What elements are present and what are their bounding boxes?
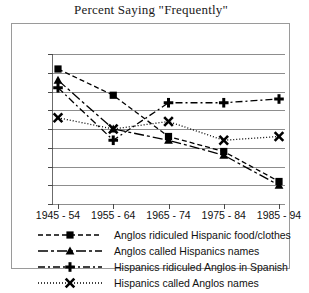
- data-point-square: [66, 231, 73, 238]
- data-point-plus: [164, 98, 174, 108]
- x-axis-tick-labels: 1945 - 541955 - 641965 - 741975 - 841985…: [26, 209, 294, 225]
- legend-marker-square-icon: [34, 227, 106, 243]
- legend-item: Hispanics called Anglos names: [34, 275, 290, 291]
- data-point-plus: [65, 262, 75, 272]
- chart-frame: 4035302520151050 1945 - 541955 - 641965 …: [11, 23, 290, 269]
- legend-label: Anglos ridiculed Hispanic food/clothes: [106, 229, 291, 241]
- data-point-x: [54, 113, 63, 122]
- series-line: [58, 69, 279, 182]
- legend-item: Anglos called Hispanics names: [34, 243, 290, 259]
- legend-label: Hispanics called Anglos names: [106, 277, 259, 289]
- data-point-plus: [274, 94, 284, 104]
- data-point-x: [219, 136, 228, 145]
- x-tick-label: 1955 - 64: [83, 209, 143, 221]
- data-point-plus: [219, 98, 229, 108]
- chart-title: Percent Saying "Frequently": [0, 2, 302, 18]
- legend-marker-x-icon: [34, 275, 106, 291]
- series-line: [58, 88, 279, 141]
- legend-marker-plus-icon: [34, 259, 106, 275]
- x-tick-label: 1985 - 94: [249, 209, 309, 221]
- data-point-square: [110, 92, 117, 99]
- x-tick-label: 1965 - 74: [139, 209, 199, 221]
- legend-label: Hispanics ridiculed Anglos in Spanish: [106, 261, 288, 273]
- y-tick-mark: [48, 204, 53, 205]
- chart-legend: Anglos ridiculed Hispanic food/clothesAn…: [34, 227, 290, 291]
- series-lines: [52, 54, 285, 204]
- legend-label: Anglos called Hispanics names: [106, 245, 259, 257]
- plot-area: 4035302520151050: [52, 54, 285, 204]
- x-tick-label: 1945 - 54: [28, 209, 88, 221]
- series-line: [58, 80, 279, 185]
- data-point-square: [54, 65, 61, 72]
- data-point-x: [164, 117, 173, 126]
- legend-item: Anglos ridiculed Hispanic food/clothes: [34, 227, 290, 243]
- x-tick-label: 1975 - 84: [194, 209, 254, 221]
- legend-marker-triangle-icon: [34, 243, 106, 259]
- data-point-x: [66, 279, 75, 288]
- data-point-triangle: [54, 76, 63, 84]
- legend-item: Hispanics ridiculed Anglos in Spanish: [34, 259, 290, 275]
